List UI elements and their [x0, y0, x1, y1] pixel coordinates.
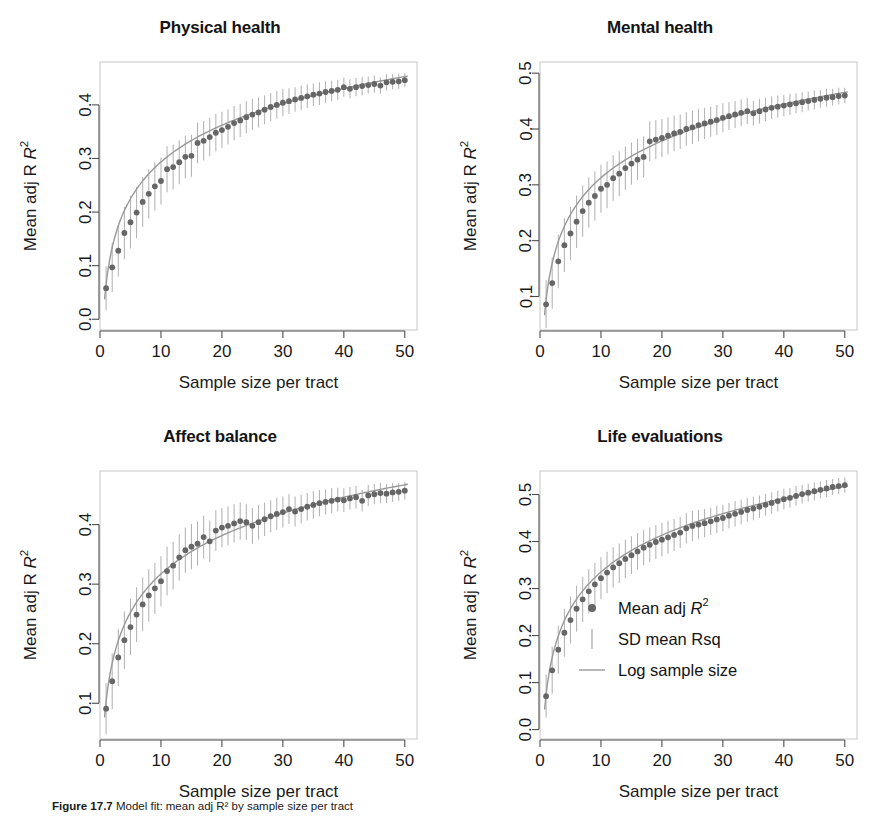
plot-area: 0.00.10.20.30.4Mean adj R R201020304050S…	[0, 0, 440, 400]
data-point	[359, 498, 365, 504]
data-point	[568, 231, 574, 237]
data-point	[201, 138, 207, 144]
data-point	[732, 112, 738, 118]
figure-container: Physical health 0.00.10.20.30.4Mean adj …	[0, 0, 880, 818]
data-point	[818, 96, 824, 102]
data-point	[256, 519, 262, 525]
data-point	[696, 522, 702, 528]
data-point	[378, 83, 384, 89]
data-point	[690, 523, 696, 529]
x-tick-label: 30	[713, 751, 732, 770]
panel-mental-health: Mental health 0.10.20.30.40.5Mean adj R …	[440, 0, 880, 400]
data-point	[250, 112, 256, 118]
data-point	[329, 88, 335, 94]
data-point	[390, 79, 396, 85]
x-tick-label: 10	[592, 342, 611, 361]
data-point	[830, 94, 836, 100]
x-tick-label: 40	[774, 342, 793, 361]
data-point	[763, 107, 769, 113]
data-point	[659, 537, 665, 543]
errorbars-group	[546, 478, 845, 718]
log-fit-curve	[105, 484, 408, 717]
data-point	[152, 585, 158, 591]
data-point	[323, 499, 329, 505]
x-tick-label: 10	[152, 342, 171, 361]
svg-text:Mean adj R R2: Mean adj R R2	[458, 550, 480, 660]
data-point	[677, 129, 683, 135]
data-point	[622, 556, 628, 562]
data-point	[635, 549, 641, 555]
data-point	[629, 161, 635, 167]
y-axis: 0.10.20.30.40.5	[517, 61, 540, 308]
y-axis: 0.00.10.20.30.40.5	[517, 483, 540, 742]
data-point	[561, 242, 567, 248]
svg-text:Mean adj R R2: Mean adj R R2	[18, 550, 40, 660]
y-tick-label: 0.5	[517, 61, 536, 85]
y-axis: 0.00.10.20.30.4	[77, 93, 100, 331]
data-point	[237, 518, 243, 524]
data-point	[793, 493, 799, 499]
data-point	[201, 534, 207, 540]
y-axis: 0.10.20.30.4	[77, 513, 100, 715]
data-point	[164, 166, 170, 172]
x-tick-label: 10	[152, 751, 171, 770]
x-tick-label: 20	[212, 342, 231, 361]
caption-prefix: Figure 17.7	[52, 800, 113, 812]
data-point	[182, 547, 188, 553]
data-point	[146, 593, 152, 599]
data-point	[317, 91, 323, 97]
data-point	[653, 539, 659, 545]
data-point	[378, 490, 384, 496]
x-tick-label: 50	[395, 751, 414, 770]
data-point	[744, 108, 750, 114]
data-point	[574, 219, 580, 225]
data-point	[744, 507, 750, 513]
data-point	[268, 513, 274, 519]
data-point	[665, 534, 671, 540]
y-axis-title: Mean adj R R2	[18, 141, 40, 251]
data-point	[115, 248, 121, 254]
data-point	[384, 79, 390, 85]
data-point	[702, 121, 708, 127]
data-point	[134, 612, 140, 618]
data-point	[103, 285, 109, 291]
data-point	[592, 581, 598, 587]
data-point	[738, 509, 744, 515]
data-point	[231, 120, 237, 126]
data-point	[176, 159, 182, 165]
data-point	[182, 154, 188, 160]
data-point	[750, 506, 756, 512]
data-point	[365, 82, 371, 88]
y-tick-label: 0.4	[77, 513, 96, 537]
data-point	[262, 516, 268, 522]
x-tick-label: 20	[652, 342, 671, 361]
x-axis-title: Sample size per tract	[179, 782, 339, 801]
data-point	[604, 570, 610, 576]
data-point	[714, 517, 720, 523]
data-point	[683, 525, 689, 531]
data-point	[696, 122, 702, 128]
data-point	[665, 133, 671, 139]
legend-label: SD mean Rsq	[618, 630, 721, 648]
y-tick-label: 0.2	[77, 200, 96, 224]
svg-text:Mean adj R R2: Mean adj R R2	[458, 141, 480, 251]
data-point	[365, 493, 371, 499]
data-point	[690, 124, 696, 130]
errorbars-group	[106, 73, 405, 310]
data-point	[286, 506, 292, 512]
data-point	[310, 502, 316, 508]
data-point	[371, 491, 377, 497]
log-fit-curve	[105, 76, 408, 299]
data-point	[671, 131, 677, 137]
data-point	[708, 119, 714, 125]
data-point	[604, 182, 610, 188]
errorbars-group	[546, 88, 845, 329]
y-tick-label: 0.1	[77, 691, 96, 715]
data-point	[170, 164, 176, 170]
data-point	[347, 495, 353, 501]
data-point	[170, 563, 176, 569]
data-point	[353, 84, 359, 90]
x-tick-label: 40	[334, 342, 353, 361]
data-point	[763, 502, 769, 508]
data-point	[610, 175, 616, 181]
